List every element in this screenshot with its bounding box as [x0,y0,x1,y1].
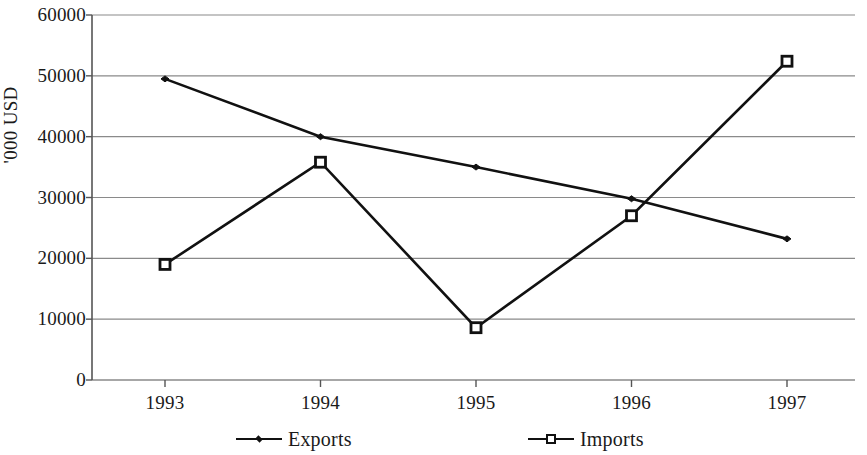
y-axis-tick-label: 60000 [0,5,86,24]
x-axis-tick-label: 1996 [572,392,692,414]
x-axis-tick-label: 1995 [416,392,536,414]
data-markers [160,56,792,332]
square-marker-icon [546,434,556,444]
y-axis-tick-label: 50000 [0,66,86,85]
legend-swatch-imports [528,432,574,446]
legend-item-exports: Exports [236,425,352,453]
data-point-exports-1995 [472,164,480,170]
diamond-marker-icon [255,435,262,442]
data-point-exports-1997 [783,236,791,242]
y-axis-tick-marks [86,15,787,387]
data-point-imports-1997 [782,56,792,66]
chart-legend: Exports Imports [0,425,867,455]
legend-swatch-exports [236,432,282,446]
data-point-imports-1993 [160,259,170,269]
line-chart: '000 USD 0100002000030000400005000060000… [0,0,867,455]
y-axis-tick-label: 10000 [0,309,86,328]
y-axis-tick-label: 20000 [0,248,86,267]
legend-label-imports: Imports [580,428,644,450]
y-axis-tick-labels: 0100002000030000400005000060000 [0,0,86,455]
legend-label-exports: Exports [288,428,352,450]
x-axis-tick-label: 1994 [261,392,381,414]
data-point-imports-1995 [471,323,481,333]
x-axis-tick-labels: 19931994199519961997 [92,392,855,420]
y-axis-tick-label: 40000 [0,127,86,146]
data-point-imports-1996 [627,211,637,221]
series-line-imports [165,61,787,327]
y-axis-tick-label: 30000 [0,188,86,207]
data-point-exports-1996 [628,196,636,202]
y-axis-tick-label: 0 [0,370,86,389]
data-series [165,61,787,327]
legend-item-imports: Imports [528,425,644,453]
plot-area [92,15,855,380]
series-line-exports [165,79,787,239]
plot-svg [92,15,855,380]
x-axis-tick-label: 1993 [105,392,225,414]
x-axis-tick-label: 1997 [727,392,847,414]
data-point-imports-1994 [316,157,326,167]
